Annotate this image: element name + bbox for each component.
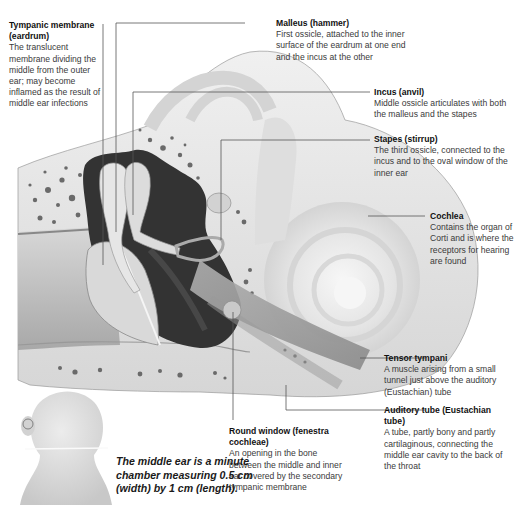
- label-desc: The third ossicle, connected to the incu…: [374, 145, 514, 179]
- round-window: [223, 301, 241, 319]
- label-desc: Contains the organ of Corti and is where…: [430, 222, 516, 267]
- label-desc: Middle ossicle articulates with both the…: [374, 98, 514, 120]
- label-desc: The translucent membrane dividing the mi…: [9, 42, 101, 109]
- label-title: Malleus (hammer): [276, 18, 416, 29]
- label-title: Auditory tube (Eustachian tube): [384, 405, 514, 427]
- oval-window: [207, 193, 231, 213]
- label-desc: A tube, partly bony and partly cartilagi…: [384, 427, 514, 472]
- head-back-view-icon: [20, 392, 112, 506]
- size-caption: The middle ear is a minute chamber measu…: [116, 455, 276, 496]
- label-malleus: Malleus (hammer) First ossicle, attached…: [276, 18, 416, 63]
- label-title: Stapes (stirrup): [374, 134, 514, 145]
- label-title: Round window (fenestra cochleae): [229, 426, 351, 448]
- label-title: Cochlea: [430, 211, 516, 222]
- label-auditory-tube: Auditory tube (Eustachian tube) A tube, …: [384, 405, 514, 472]
- label-title: Incus (anvil): [374, 87, 514, 98]
- label-title: Tensor tympani: [384, 353, 514, 364]
- label-cochlea: Cochlea Contains the organ of Corti and …: [430, 211, 516, 267]
- label-tensor-tympani: Tensor tympani A muscle arising from a s…: [384, 353, 514, 398]
- label-desc: A muscle arising from a small tunnel jus…: [384, 364, 514, 398]
- label-incus: Incus (anvil) Middle ossicle articulates…: [374, 87, 514, 121]
- label-desc: First ossicle, attached to the inner sur…: [276, 29, 416, 63]
- label-tympanic-membrane: Tympanic membrane (eardrum) The transluc…: [9, 20, 101, 110]
- label-stapes: Stapes (stirrup) The third ossicle, conn…: [374, 134, 514, 179]
- label-title: Tympanic membrane (eardrum): [9, 20, 101, 42]
